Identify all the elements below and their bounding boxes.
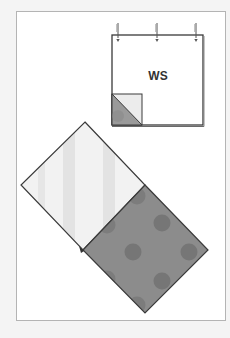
pin-1 [116,23,119,42]
wrong-side-square: WS [112,23,204,127]
stripe [63,115,75,255]
pin-3 [194,23,197,42]
stripe [38,115,45,255]
polka-dot [154,215,171,232]
polka-dot [181,244,198,261]
folded-corner [112,94,142,125]
diagram-canvas: WS [0,0,230,338]
square-label: WS [148,69,167,83]
polka-dot [125,244,142,261]
polka-dot [99,271,116,288]
folded-dot [112,110,124,122]
pin-2 [155,23,158,42]
polka-dot [154,273,171,290]
